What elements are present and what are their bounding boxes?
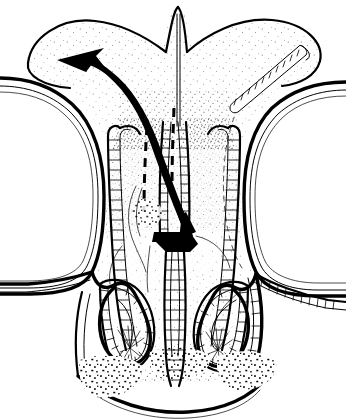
right-lateral-branch	[254, 274, 346, 310]
anatomy-illustration	[0, 0, 346, 420]
figure-root: Anatomical sagittal line drawing anorect…	[0, 0, 346, 420]
left-lateral-branch	[0, 272, 92, 292]
